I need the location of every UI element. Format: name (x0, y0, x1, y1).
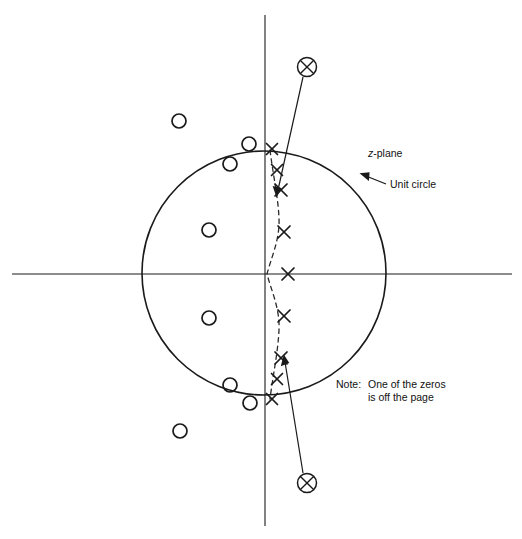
callout-leader-line-top (278, 77, 303, 190)
note-line-2: is off the page (368, 391, 434, 403)
zero-marker (243, 396, 257, 410)
pole-marker (267, 144, 278, 155)
zero-marker (173, 424, 187, 438)
unit-circle-arrowhead (360, 172, 370, 181)
zero-marker (202, 223, 216, 237)
pole-marker (278, 310, 290, 322)
zero-marker (172, 114, 186, 128)
pole-marker (278, 226, 290, 238)
zero-marker (202, 311, 216, 325)
axes-group (12, 15, 512, 526)
pole-zero-plot-canvas: z-plane Unit circle Note: One of the zer… (0, 0, 522, 539)
z-plane-label: z-plane (367, 147, 403, 159)
offpage-pole-callout-top (273, 58, 317, 198)
zeros-group (172, 114, 257, 438)
unit-circle-shape (142, 151, 386, 395)
pole-marker (272, 374, 283, 385)
note-prefix-label: Note: (336, 378, 361, 390)
note-line-1: One of the zeros (368, 378, 446, 390)
off-page-note: Note: One of the zeros is off the page (336, 378, 446, 403)
z-plane-label-suffix: -plane (373, 147, 402, 159)
zero-marker (242, 137, 256, 151)
zero-marker (223, 157, 237, 171)
pole-zero-figure: z-plane Unit circle Note: One of the zer… (0, 0, 522, 539)
callout-leader-line-bottom (285, 362, 303, 473)
offpage-pole-callout-bottom (281, 355, 317, 493)
unit-circle-label: Unit circle (390, 178, 436, 190)
unit-circle-leader (360, 172, 387, 184)
